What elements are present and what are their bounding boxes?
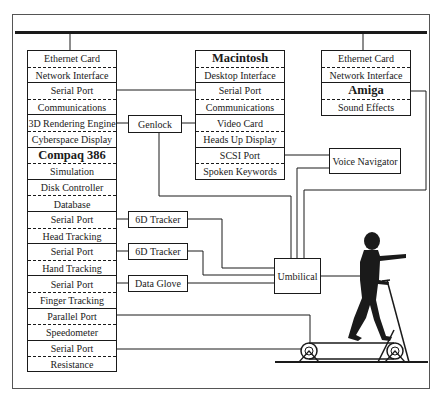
speedometer-group: Parallel Port Speedometer: [28, 309, 116, 341]
component-label: Serial Port: [28, 244, 116, 261]
component-label: Ethernet Card: [322, 51, 410, 68]
scsi-port-group: SCSI Port Spoken Keywords: [196, 148, 284, 178]
compaq-386-group: Compaq 386 Simulation: [28, 148, 116, 180]
function-label: Communications: [28, 100, 116, 116]
ethernet-card-group: Ethernet Card Network Interface: [28, 51, 116, 83]
head-tracking-group: Serial Port Head Tracking: [28, 212, 116, 244]
component-label: Serial Port: [28, 341, 116, 357]
function-label: Communications: [196, 100, 284, 116]
person-silhouette-icon: [348, 232, 406, 341]
component-label: Serial Port: [196, 83, 284, 100]
function-label: Head Tracking: [28, 229, 116, 245]
data-glove-box: Data Glove: [128, 275, 188, 292]
resistance-group: Serial Port Resistance: [28, 341, 116, 371]
component-label: Serial Port: [28, 83, 116, 100]
component-label: Serial Port: [28, 212, 116, 229]
component-label: Video Card: [196, 115, 284, 132]
finger-tracking-group: Serial Port Finger Tracking: [28, 276, 116, 308]
component-label: Serial Port: [28, 276, 116, 293]
compaq-386-column: Ethernet Card Network Interface Serial P…: [27, 50, 117, 372]
amiga-column: Ethernet Card Network Interface Amiga So…: [321, 50, 411, 116]
serial-port-communications-group: Serial Port Communications: [196, 83, 284, 115]
function-label: Network Interface: [28, 68, 116, 84]
rendering-engine-group: 3D Rendering Engine Cyberspace Display: [28, 115, 116, 147]
component-label: Ethernet Card: [28, 51, 116, 68]
serial-port-communications-group: Serial Port Communications: [28, 83, 116, 115]
component-label: 3D Rendering Engine: [28, 115, 116, 132]
genlock-box: Genlock: [128, 115, 182, 133]
ethernet-card-group: Ethernet Card Network Interface: [322, 51, 410, 83]
disk-controller-group: Disk Controller Database: [28, 180, 116, 212]
component-label: Parallel Port: [28, 309, 116, 326]
amiga-group: Amiga Sound Effects: [322, 83, 410, 114]
computer-title: Amiga: [322, 83, 410, 100]
function-label: Sound Effects: [322, 100, 410, 116]
function-label: Heads Up Display: [196, 132, 284, 148]
function-label: Speedometer: [28, 325, 116, 341]
component-label: SCSI Port: [196, 148, 284, 164]
hand-tracking-group: Serial Port Hand Tracking: [28, 244, 116, 276]
macintosh-group: Macintosh Desktop Interface: [196, 51, 284, 83]
computer-title: Macintosh: [196, 51, 284, 68]
macintosh-column: Macintosh Desktop Interface Serial Port …: [195, 50, 285, 180]
function-label: Spoken Keywords: [196, 164, 284, 179]
function-label: Cyberspace Display: [28, 132, 116, 148]
umbilical-box: Umbilical: [274, 258, 321, 294]
hand-tracker-box: 6D Tracker: [128, 243, 188, 260]
component-label: Disk Controller: [28, 180, 116, 197]
voice-navigator-box: Voice Navigator: [329, 148, 401, 174]
function-label: Resistance: [28, 357, 116, 372]
function-label: Simulation: [28, 164, 116, 180]
function-label: Hand Tracking: [28, 261, 116, 277]
function-label: Database: [28, 196, 116, 212]
function-label: Network Interface: [322, 68, 410, 84]
head-tracker-box: 6D Tracker: [128, 211, 188, 228]
function-label: Finger Tracking: [28, 293, 116, 309]
computer-title: Compaq 386: [28, 148, 116, 165]
function-label: Desktop Interface: [196, 68, 284, 84]
video-card-group: Video Card Heads Up Display: [196, 115, 284, 147]
